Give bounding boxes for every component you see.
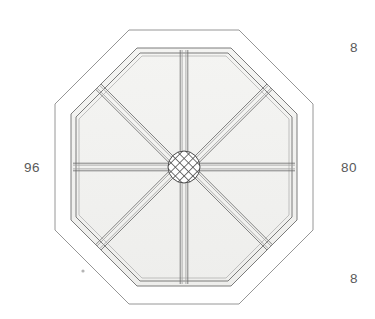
dimension-label-right: 80 [341,160,357,175]
dimension-label-top-right: 8 [350,40,358,55]
reference-dot [81,269,84,272]
dimension-label-bottom-right: 8 [350,271,358,286]
dimension-label-left: 96 [24,160,40,175]
center-hub [168,151,200,183]
technical-drawing-canvas: 96 80 8 8 [0,0,375,319]
octagon-frame-svg [0,0,375,319]
